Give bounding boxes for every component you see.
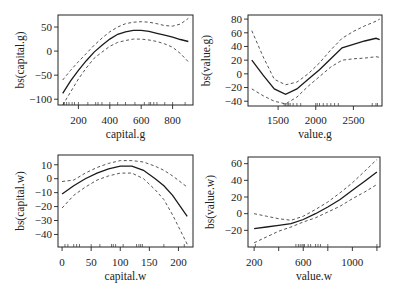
confidence-band-upper xyxy=(63,18,189,80)
x-tick-label: 100 xyxy=(112,256,129,268)
x-tick-label: 1000 xyxy=(341,256,364,268)
fitted-curve xyxy=(252,38,380,94)
y-tick-label: 0 xyxy=(47,172,53,184)
x-tick-label: 50 xyxy=(86,256,98,268)
panel-bottom-left: 050100150200−40−30−20−10010capital.wbs(c… xyxy=(14,155,193,283)
y-tick-label: 10 xyxy=(41,159,53,171)
y-axis-label: bs(value.g) xyxy=(200,35,213,87)
confidence-band-upper xyxy=(252,19,380,85)
y-axis-label: bs(value.w) xyxy=(204,175,217,229)
y-tick-label: 0 xyxy=(47,45,53,57)
y-tick-label: −20 xyxy=(35,200,53,212)
y-tick-label: −50 xyxy=(35,69,53,81)
x-tick-label: 2500 xyxy=(342,114,365,126)
y-tick-label: 60 xyxy=(231,157,243,169)
y-tick-label: −20 xyxy=(225,81,243,93)
confidence-band-lower xyxy=(62,173,187,244)
fitted-curve xyxy=(254,172,377,229)
y-tick-label: −40 xyxy=(35,228,53,240)
y-tick-label: 80 xyxy=(231,13,243,25)
y-tick-label: −40 xyxy=(225,95,243,107)
x-tick-label: 600 xyxy=(295,256,312,268)
y-tick-label: −10 xyxy=(35,186,53,198)
y-tick-label: −30 xyxy=(35,214,53,226)
y-tick-label: 40 xyxy=(231,40,243,52)
x-tick-label: 1500 xyxy=(267,114,290,126)
x-tick-label: 200 xyxy=(170,256,187,268)
panel-top-left: 200400600800−100−50050capital.gbs(capita… xyxy=(14,15,193,141)
y-tick-label: −20 xyxy=(225,224,243,236)
y-axis-label: bs(capital.w) xyxy=(14,171,27,231)
confidence-band-upper xyxy=(254,160,377,221)
y-tick-label: 40 xyxy=(231,174,243,186)
confidence-band-upper xyxy=(62,161,187,188)
fitted-curve xyxy=(63,30,189,93)
y-tick-label: −100 xyxy=(29,93,52,105)
x-tick-label: 600 xyxy=(133,114,150,126)
y-tick-label: 20 xyxy=(231,54,243,66)
y-tick-label: 20 xyxy=(231,191,243,203)
x-tick-label: 400 xyxy=(102,114,119,126)
confidence-band-lower xyxy=(63,39,189,105)
x-tick-label: 2000 xyxy=(305,114,328,126)
x-tick-label: 150 xyxy=(141,256,158,268)
x-tick-label: 800 xyxy=(164,114,181,126)
plot-frame xyxy=(58,155,193,247)
plot-frame xyxy=(58,15,193,105)
y-axis-label: bs(capital.g) xyxy=(14,31,27,88)
plot-frame xyxy=(248,157,380,247)
x-axis-label: value.g xyxy=(298,128,332,141)
x-axis-label: capital.w xyxy=(105,270,148,283)
panel-bottom-right: 2006001000−200204060value.wbs(value.w) xyxy=(204,157,380,282)
x-axis-label: capital.g xyxy=(106,128,146,141)
y-tick-label: 60 xyxy=(231,27,243,39)
x-tick-label: 200 xyxy=(70,114,87,126)
plot-frame xyxy=(248,15,382,106)
gam-partial-effects-figure: 200400600800−100−50050capital.gbs(capita… xyxy=(0,0,395,292)
y-tick-label: 0 xyxy=(237,68,243,80)
x-tick-label: 0 xyxy=(59,256,65,268)
panel-top-right: 150020002500−40−20020406080value.gbs(val… xyxy=(200,13,382,141)
x-tick-label: 200 xyxy=(246,256,263,268)
fitted-curve xyxy=(62,166,187,216)
y-tick-label: 0 xyxy=(237,207,243,219)
y-tick-label: 50 xyxy=(41,21,53,33)
confidence-band-lower xyxy=(252,57,380,104)
x-axis-label: value.w xyxy=(296,270,333,282)
